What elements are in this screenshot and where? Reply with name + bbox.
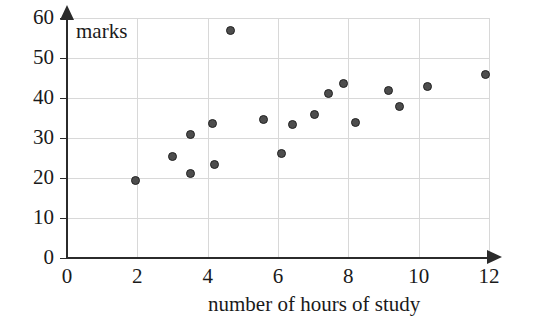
gridline-vertical xyxy=(348,18,349,258)
data-point xyxy=(186,130,195,139)
y-axis-tick xyxy=(60,98,67,99)
scatter-plot: 0102030405060024681012 marks number of h… xyxy=(0,0,535,328)
x-axis-tick-label: 6 xyxy=(258,266,298,287)
gridline-vertical xyxy=(489,18,490,258)
y-axis-tick-label: 40 xyxy=(8,87,54,108)
x-axis-tick-label: 4 xyxy=(188,266,228,287)
data-point xyxy=(288,120,297,129)
gridline-vertical xyxy=(137,18,138,258)
x-axis-line xyxy=(67,257,489,259)
data-point xyxy=(186,169,195,178)
data-point xyxy=(226,26,235,35)
y-axis-tick-label: 50 xyxy=(8,47,54,68)
y-axis-tick-label: 10 xyxy=(8,207,54,228)
y-axis-tick-label: 30 xyxy=(8,127,54,148)
data-point xyxy=(324,89,333,98)
x-axis-tick-label: 8 xyxy=(328,266,368,287)
y-axis-tick-label: 20 xyxy=(8,167,54,188)
data-point xyxy=(395,102,404,111)
data-point xyxy=(351,118,360,127)
x-axis-title: number of hours of study xyxy=(208,293,420,315)
data-point xyxy=(339,79,348,88)
data-point xyxy=(423,82,432,91)
gridline-vertical xyxy=(208,18,209,258)
x-axis-tick-label: 0 xyxy=(47,266,87,287)
y-axis-tick xyxy=(60,258,67,259)
x-axis-tick-label: 12 xyxy=(469,266,509,287)
y-axis-tick xyxy=(60,178,67,179)
x-axis-tick-label: 10 xyxy=(399,266,439,287)
data-point xyxy=(259,115,268,124)
data-point xyxy=(210,160,219,169)
data-point xyxy=(208,119,217,128)
x-axis-tick-label: 2 xyxy=(117,266,157,287)
y-axis-tick xyxy=(60,218,67,219)
data-point xyxy=(168,152,177,161)
data-point xyxy=(277,149,286,158)
gridline-vertical xyxy=(278,18,279,258)
data-point xyxy=(481,70,490,79)
data-point xyxy=(384,86,393,95)
y-axis-tick-label: 0 xyxy=(8,247,54,268)
y-axis-tick xyxy=(60,58,67,59)
y-axis-tick-label: 60 xyxy=(8,7,54,28)
y-axis-tick xyxy=(60,18,67,19)
gridline-vertical xyxy=(419,18,420,258)
arrow-right-icon xyxy=(487,250,502,264)
y-axis-tick xyxy=(60,138,67,139)
plot-area xyxy=(67,18,489,258)
y-axis-title: marks xyxy=(76,20,127,42)
data-point xyxy=(131,176,140,185)
data-point xyxy=(310,110,319,119)
